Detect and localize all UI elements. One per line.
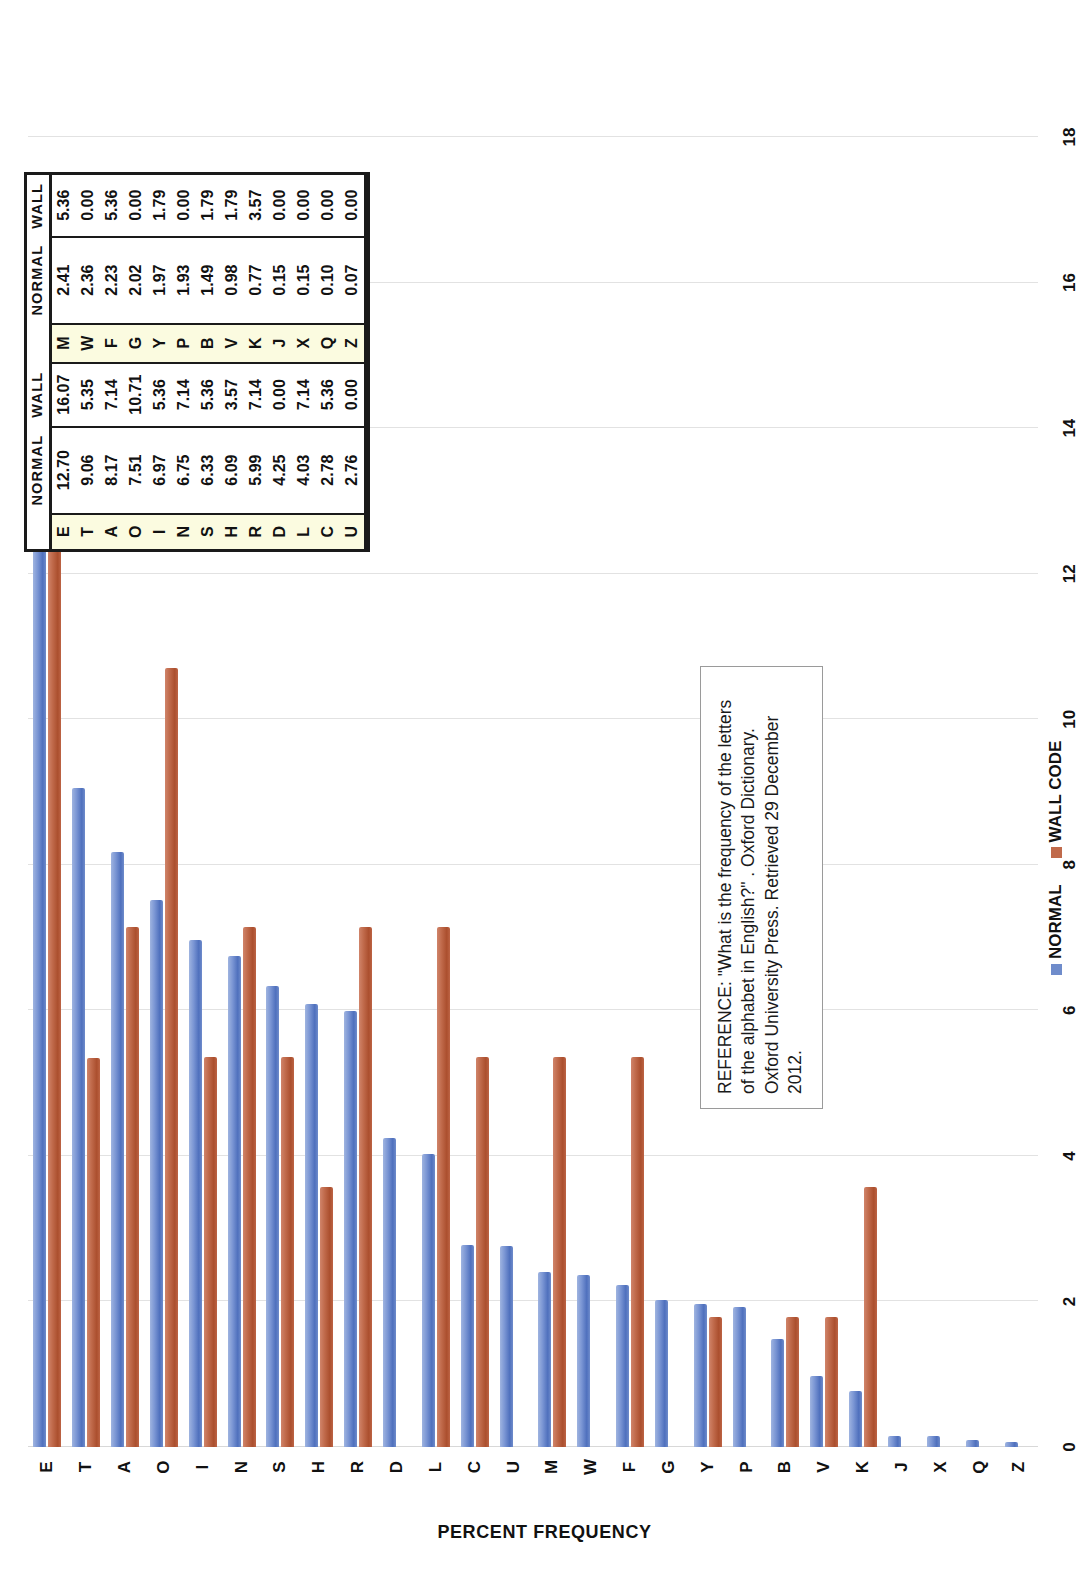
bar-wall-code bbox=[709, 1317, 722, 1447]
cell-right-normal: 2.41 bbox=[51, 237, 77, 324]
bar-normal bbox=[344, 1011, 357, 1447]
bar-group: L bbox=[416, 137, 455, 1447]
category-label: G bbox=[659, 1453, 679, 1481]
bar-normal bbox=[927, 1436, 940, 1447]
frequency-table-container: NORMAL WALL NORMAL WALL E12.7016.07M2.41… bbox=[24, 172, 370, 552]
bar-wall-code bbox=[126, 927, 139, 1447]
table-row: N6.757.14P1.930.00 bbox=[172, 175, 196, 549]
bar-normal bbox=[228, 956, 241, 1447]
bar-group: K bbox=[844, 137, 883, 1447]
bar-wall-code bbox=[476, 1057, 489, 1447]
cell-right-normal: 0.15 bbox=[292, 237, 316, 324]
cell-left-normal: 6.75 bbox=[172, 427, 196, 514]
category-label: B bbox=[775, 1453, 795, 1481]
legend-label: NORMAL bbox=[1046, 884, 1066, 959]
bar-wall-code bbox=[281, 1057, 294, 1447]
cell-right-normal: 2.23 bbox=[100, 237, 124, 324]
bar-wall-code bbox=[204, 1057, 217, 1447]
category-label: O bbox=[154, 1453, 174, 1481]
category-label: W bbox=[581, 1453, 601, 1481]
cell-left-wall: 7.14 bbox=[244, 363, 268, 427]
cell-right-wall: 3.57 bbox=[244, 175, 268, 237]
cell-left-wall: 5.36 bbox=[148, 363, 172, 427]
bar-normal bbox=[461, 1245, 474, 1447]
category-label: Y bbox=[698, 1453, 718, 1481]
cell-left-normal: 8.17 bbox=[100, 427, 124, 514]
table-row: I6.975.36Y1.971.79 bbox=[148, 175, 172, 549]
cell-left-normal: 4.25 bbox=[268, 427, 292, 514]
bar-normal bbox=[1005, 1442, 1018, 1447]
category-label: J bbox=[892, 1453, 912, 1481]
axis-tick-label: 12 bbox=[1060, 564, 1080, 583]
reference-note-box: REFERENCE: "What is the frequency of the… bbox=[700, 666, 823, 1109]
cell-right-wall: 0.00 bbox=[172, 175, 196, 237]
category-label: F bbox=[620, 1453, 640, 1481]
category-label: X bbox=[931, 1453, 951, 1481]
bar-normal bbox=[849, 1391, 862, 1447]
cell-right-letter: P bbox=[172, 324, 196, 363]
reference-text: REFERENCE: "What is the frequency of the… bbox=[715, 700, 805, 1094]
cell-right-normal: 1.49 bbox=[196, 237, 220, 324]
category-label: U bbox=[504, 1453, 524, 1481]
cell-right-normal: 0.15 bbox=[268, 237, 292, 324]
cell-right-wall: 0.00 bbox=[76, 175, 100, 237]
bar-normal bbox=[33, 523, 46, 1447]
cell-left-wall: 5.35 bbox=[76, 363, 100, 427]
cell-left-normal: 9.06 bbox=[76, 427, 100, 514]
table-row: O7.5110.71G2.020.00 bbox=[124, 175, 148, 549]
bar-group: D bbox=[378, 137, 417, 1447]
bar-normal bbox=[616, 1285, 629, 1447]
category-label: T bbox=[76, 1453, 96, 1481]
cell-right-normal: 1.93 bbox=[172, 237, 196, 324]
bar-normal bbox=[655, 1300, 668, 1447]
frequency-table-head: NORMAL WALL NORMAL WALL bbox=[27, 175, 51, 549]
bar-normal bbox=[500, 1246, 513, 1447]
bar-normal bbox=[422, 1154, 435, 1447]
bar-wall-code bbox=[864, 1187, 877, 1447]
axis-tick-label: 6 bbox=[1060, 1006, 1080, 1015]
table-row: U2.760.00Z0.070.00 bbox=[340, 175, 366, 549]
table-row: L4.037.14X0.150.00 bbox=[292, 175, 316, 549]
legend-item[interactable]: NORMAL bbox=[1046, 884, 1066, 975]
bar-normal bbox=[266, 986, 279, 1447]
cell-right-wall: 1.79 bbox=[148, 175, 172, 237]
cell-left-letter: A bbox=[100, 514, 124, 549]
cell-left-normal: 6.97 bbox=[148, 427, 172, 514]
bar-group: F bbox=[611, 137, 650, 1447]
cell-left-wall: 5.36 bbox=[316, 363, 340, 427]
category-label: C bbox=[465, 1453, 485, 1481]
axis-tick-label: 16 bbox=[1060, 273, 1080, 292]
cell-left-wall: 5.36 bbox=[196, 363, 220, 427]
category-label: A bbox=[115, 1453, 135, 1481]
chart-sheet: PERCENT FREQUENCY 024681012141618 ETAOIN… bbox=[0, 0, 1089, 1575]
cell-left-wall: 10.71 bbox=[124, 363, 148, 427]
cell-left-normal: 6.09 bbox=[220, 427, 244, 514]
chart-legend: NORMALWALL CODE bbox=[1046, 741, 1066, 975]
frequency-table-header-row: NORMAL WALL NORMAL WALL bbox=[27, 175, 51, 549]
category-label: R bbox=[348, 1453, 368, 1481]
bar-wall-code bbox=[243, 927, 256, 1447]
bar-wall-code bbox=[553, 1057, 566, 1447]
table-row: R5.997.14K0.773.57 bbox=[244, 175, 268, 549]
cell-left-wall: 7.14 bbox=[292, 363, 316, 427]
legend-item[interactable]: WALL CODE bbox=[1046, 741, 1066, 859]
header-right-letter bbox=[27, 324, 51, 363]
bar-group: Z bbox=[999, 137, 1038, 1447]
axis-tick-label: 14 bbox=[1060, 419, 1080, 438]
cell-left-letter: U bbox=[340, 514, 366, 549]
value-axis-title: PERCENT FREQUENCY bbox=[0, 1517, 1089, 1547]
bar-normal bbox=[771, 1339, 784, 1447]
bar-normal bbox=[189, 940, 202, 1447]
cell-left-normal: 6.33 bbox=[196, 427, 220, 514]
cell-right-normal: 2.02 bbox=[124, 237, 148, 324]
cell-right-normal: 1.97 bbox=[148, 237, 172, 324]
cell-right-letter: V bbox=[220, 324, 244, 363]
cell-right-letter: Q bbox=[316, 324, 340, 363]
bar-group: J bbox=[883, 137, 922, 1447]
cell-right-letter: K bbox=[244, 324, 268, 363]
cell-right-wall: 0.00 bbox=[340, 175, 366, 237]
cell-right-wall: 0.00 bbox=[292, 175, 316, 237]
cell-right-normal: 0.77 bbox=[244, 237, 268, 324]
bar-wall-code bbox=[437, 927, 450, 1447]
header-right-wall: WALL bbox=[27, 175, 51, 237]
